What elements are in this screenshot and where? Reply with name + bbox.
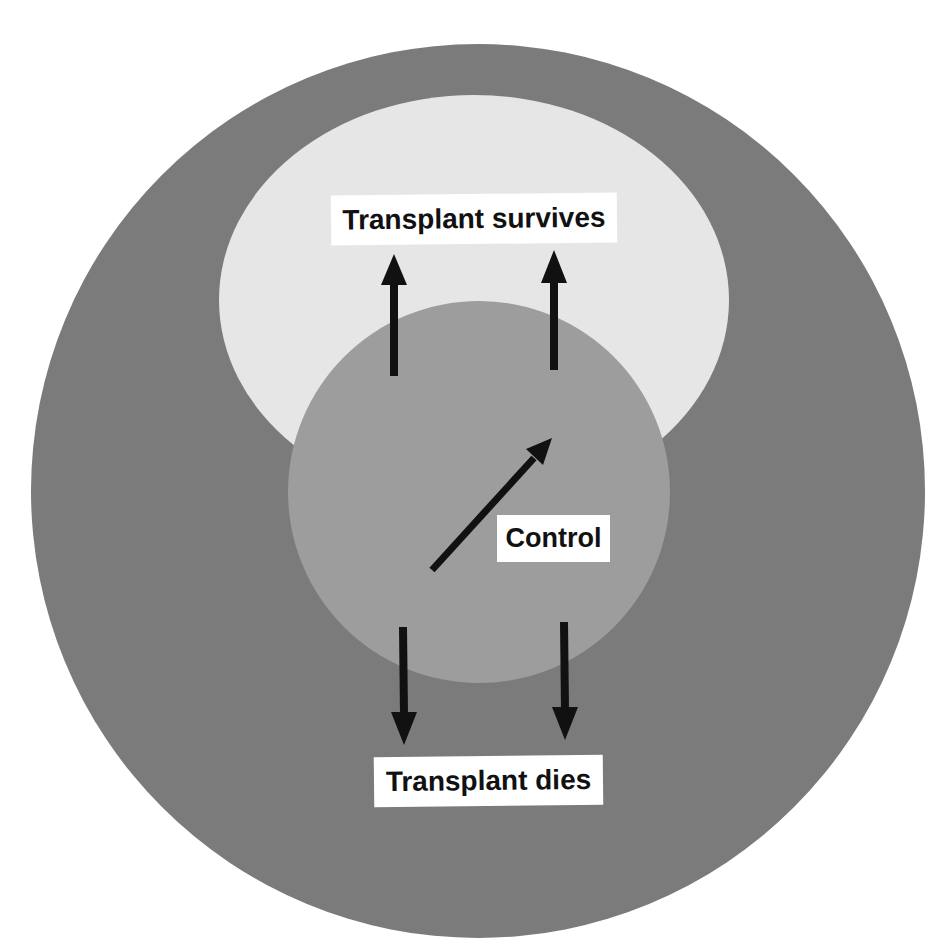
label-transplant-dies: Transplant dies [374,755,604,807]
label-control: Control [497,515,610,562]
label-transplant-survives: Transplant survives [331,193,618,246]
transplant-outcome-diagram [0,0,946,952]
control-region [288,301,670,683]
